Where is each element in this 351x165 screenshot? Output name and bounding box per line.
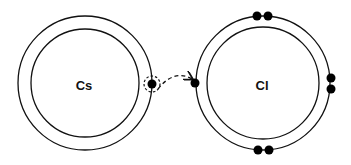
cl-electron-bottom-1: [254, 146, 263, 155]
cl-electron-right-2: [327, 85, 336, 94]
cl-electron-top-2: [264, 12, 273, 21]
cl-electron-left: [191, 79, 200, 88]
cl-electron-bottom-2: [265, 146, 274, 155]
cs-symbol-label: Cs: [76, 78, 93, 93]
cl-electron-top-1: [253, 12, 262, 21]
cl-symbol-label: Cl: [256, 78, 269, 93]
atom-diagram: [0, 0, 351, 165]
electron-transfer-arrow: [158, 76, 192, 89]
cl-electron-right-1: [327, 74, 336, 83]
cs-valence-electron: [148, 80, 157, 89]
diagram-canvas: Cs Cl: [0, 0, 351, 165]
